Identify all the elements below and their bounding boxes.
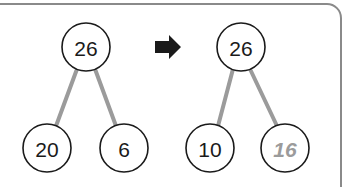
- tree-node-after-left[interactable]: 10: [186, 124, 234, 172]
- tree-node-before-left[interactable]: 20: [23, 124, 71, 172]
- node-label: 16: [273, 138, 297, 161]
- tree-edge: [250, 69, 277, 126]
- right-arrow-icon: [155, 35, 181, 59]
- node-label: 10: [198, 138, 221, 161]
- node-label: 26: [74, 37, 97, 60]
- tree-edge: [56, 69, 77, 126]
- node-label: 6: [118, 138, 130, 161]
- node-label: 20: [35, 138, 58, 161]
- tree-edge: [218, 69, 233, 126]
- tree-node-before-root[interactable]: 26: [62, 23, 110, 71]
- tree-node-after-root[interactable]: 26: [217, 23, 265, 71]
- tree-node-before-right[interactable]: 6: [100, 124, 148, 172]
- transformation-arrow: [155, 35, 181, 59]
- tree-diagram-svg: 26 20 6 26 10: [0, 0, 361, 187]
- figure-container: 26 20 6 26 10: [0, 0, 361, 187]
- tree-edge: [95, 69, 116, 126]
- node-label: 26: [229, 37, 252, 60]
- tree-before: 26 20 6: [23, 23, 148, 172]
- tree-after: 26 10 16: [186, 23, 309, 172]
- tree-node-after-right-highlighted[interactable]: 16: [261, 124, 309, 172]
